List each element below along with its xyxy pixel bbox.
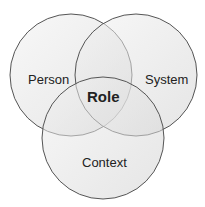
label-context: Context <box>82 155 127 170</box>
venn-diagram: Person System Context Role <box>0 0 205 207</box>
label-role: Role <box>87 88 120 105</box>
label-person: Person <box>28 72 69 87</box>
label-system: System <box>145 72 188 87</box>
